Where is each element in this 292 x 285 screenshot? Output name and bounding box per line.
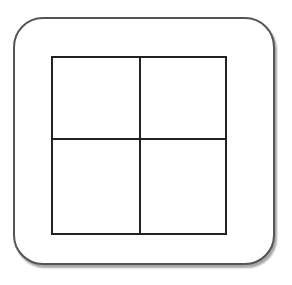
grid-horizontal-divider	[53, 138, 225, 140]
grid-vertical-divider	[139, 58, 141, 233]
grid-2x2-icon	[51, 56, 227, 235]
